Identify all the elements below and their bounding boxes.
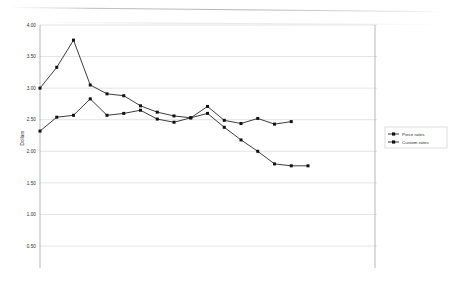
line-chart: 0.501.001.502.002.503.003.504.00 Dollars… [0, 0, 450, 282]
data-point-marker [240, 122, 243, 125]
data-point-marker [106, 92, 109, 95]
series-piece-rates [39, 39, 310, 168]
data-point-marker [55, 66, 58, 69]
data-point-marker [206, 112, 209, 115]
data-point-marker [307, 164, 310, 167]
data-point-marker [139, 104, 142, 107]
data-point-marker [122, 94, 125, 97]
data-point-marker [72, 39, 75, 42]
series-layer [39, 39, 310, 168]
data-point-marker [72, 114, 75, 117]
data-point-marker [206, 105, 209, 108]
legend-label: Piece rates [402, 132, 425, 137]
data-point-marker [156, 118, 159, 121]
y-tick-label: 3.50 [27, 54, 37, 59]
y-axis-title: Dollars [20, 130, 25, 146]
data-point-marker [139, 109, 142, 112]
data-point-marker [223, 126, 226, 129]
data-point-marker [55, 116, 58, 119]
y-tick-label: 2.50 [27, 117, 37, 122]
data-point-marker [173, 121, 176, 124]
legend-box [385, 127, 447, 148]
data-point-marker [39, 130, 42, 133]
data-point-marker [223, 119, 226, 122]
data-point-marker [106, 114, 109, 117]
series-line [40, 99, 291, 131]
y-tick-label: 0.50 [27, 244, 37, 249]
data-point-marker [240, 138, 243, 141]
series-custom-rates [39, 97, 293, 132]
legend-label: Custom rates [402, 140, 429, 145]
legend-swatch-marker [392, 132, 395, 135]
data-point-marker [290, 164, 293, 167]
data-point-marker [89, 83, 92, 86]
data-point-marker [256, 117, 259, 120]
data-point-marker [122, 112, 125, 115]
data-point-marker [189, 116, 192, 119]
y-tick-label: 1.50 [27, 181, 37, 186]
series-line [40, 40, 308, 166]
data-point-marker [290, 120, 293, 123]
data-point-marker [39, 87, 42, 90]
gridlines-group [40, 25, 377, 246]
y-tick-label: 4.00 [27, 23, 37, 28]
chart-canvas: 0.501.001.502.002.503.003.504.00 Dollars… [0, 0, 450, 282]
y-tick-label: 1.00 [27, 212, 37, 217]
data-point-marker [156, 111, 159, 114]
chart-legend: Piece ratesCustom rates [385, 127, 447, 148]
y-tick-label: 2.00 [27, 149, 37, 154]
data-point-marker [256, 150, 259, 153]
y-tick-label: 3.00 [27, 86, 37, 91]
data-point-marker [89, 97, 92, 100]
y-tick-labels-group: 0.501.001.502.002.503.003.504.00 [27, 23, 37, 249]
data-point-marker [273, 123, 276, 126]
data-point-marker [273, 162, 276, 165]
data-point-marker [173, 114, 176, 117]
legend-swatch-marker [392, 140, 395, 143]
